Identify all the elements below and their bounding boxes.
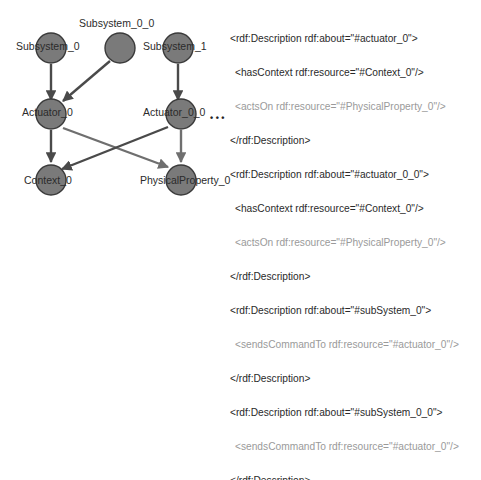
code-line: <rdf:Description rdf:about="#subSystem_0… [230, 407, 481, 418]
connector-dots: • • • [210, 113, 224, 123]
code-line: <hasContext rdf:resource="#Context_0"/> [230, 67, 481, 78]
code-line: <rdf:Description rdf:about="#actuator_0"… [230, 33, 481, 44]
code-line: <actsOn rdf:resource="#PhysicalProperty_… [230, 101, 481, 112]
rdf-code-listing: <rdf:Description rdf:about="#actuator_0"… [230, 10, 481, 480]
code-line: <actsOn rdf:resource="#PhysicalProperty_… [230, 237, 481, 248]
code-line: <sendsCommandTo rdf:resource="#actuator_… [230, 339, 481, 350]
code-line: <rdf:Description rdf:about="#subSystem_0… [230, 305, 481, 316]
code-line: </rdf:Description> [230, 271, 481, 282]
ontology-graph: Subsystem_0 Subsystem_0_0 Subsystem_1 Ac… [0, 0, 260, 219]
label-context-0: Context_0 [24, 174, 72, 186]
label-actuator-0: Actuator_0 [22, 106, 73, 118]
code-line: <sendsCommandTo rdf:resource="#actuator_… [230, 441, 481, 452]
edge-subsystem00-actuator0 [63, 61, 110, 101]
code-line: </rdf:Description> [230, 373, 481, 384]
label-physicalproperty-0: PhysicalProperty_0 [140, 174, 231, 186]
code-line: <hasContext rdf:resource="#Context_0"/> [230, 203, 481, 214]
code-line: <rdf:Description rdf:about="#actuator_0_… [230, 169, 481, 180]
label-actuator-0-0: Actuator_0_0 [143, 106, 206, 118]
code-line: </rdf:Description> [230, 475, 481, 480]
code-line: </rdf:Description> [230, 135, 481, 146]
label-subsystem-1: Subsystem_1 [143, 40, 207, 52]
label-subsystem-0-0: Subsystem_0_0 [79, 17, 154, 29]
node-subsystem-0-0 [105, 33, 135, 63]
label-subsystem-0: Subsystem_0 [16, 40, 80, 52]
